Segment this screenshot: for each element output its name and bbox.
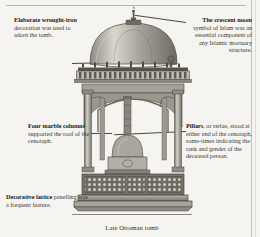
- callout-heading: The crescent moon: [202, 16, 252, 23]
- callout-body: supported the roof of the cenotaph.: [28, 130, 89, 145]
- plinth-base: [74, 195, 192, 211]
- dome: [90, 20, 177, 68]
- callout-crescent-moon: The crescent moon symbol of Islam was an…: [186, 16, 252, 54]
- callout-heading: Four marble columns: [28, 122, 85, 129]
- callout-heading: Decorative lattice: [6, 193, 52, 200]
- callout-wrought-iron: Elaborate wrought-iron decoration was us…: [14, 16, 86, 39]
- callout-marble-columns: Four marble columns supported the roof o…: [28, 122, 90, 145]
- cenotaph: [105, 135, 150, 174]
- marble-column-rear-left: [100, 98, 105, 160]
- callout-body: symbol of Islam was an essential compone…: [193, 24, 252, 54]
- callout-body: decoration was used to adorn the tomb.: [14, 24, 71, 39]
- caption-rule: [72, 214, 192, 215]
- right-rule-outer: [255, 0, 256, 237]
- marble-column-rear-right: [162, 98, 167, 160]
- lattice-panelling: [82, 174, 184, 195]
- tomb-illustration: [72, 2, 194, 214]
- callout-heading: Elaborate wrought-iron: [14, 16, 77, 23]
- callout-pillars: Pillars, or stelae, stood at either end …: [186, 122, 252, 160]
- callout-heading: Pillars: [186, 122, 203, 129]
- figure-page: Elaborate wrought-iron decoration was us…: [0, 0, 260, 237]
- callout-lattice: Decorative lattice panelling was a frequ…: [6, 193, 88, 208]
- figure-caption: Late Ottoman tomb: [72, 224, 192, 231]
- stele-pillar: [123, 96, 132, 134]
